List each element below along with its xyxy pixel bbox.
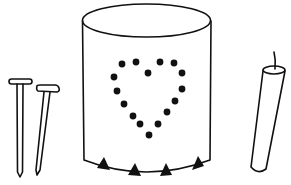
drawing	[0, 0, 291, 185]
tin-can-icon	[83, 4, 212, 172]
candle-icon	[251, 52, 285, 172]
illustration-canvas: Tin can lantern craft supplies	[0, 0, 291, 185]
heart-holes	[111, 59, 186, 139]
nail-icon	[36, 85, 59, 175]
nail-icon	[9, 79, 32, 177]
can-notches	[97, 156, 204, 176]
